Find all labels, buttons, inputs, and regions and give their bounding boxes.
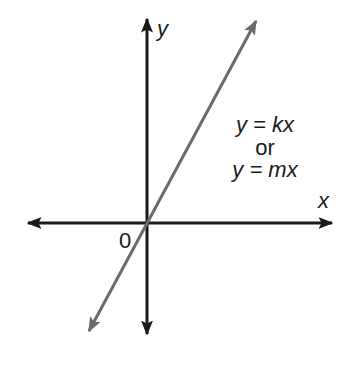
equation-or: or [200, 137, 330, 159]
origin-label: 0 [119, 230, 131, 252]
equation-mx: y = mx [200, 159, 330, 181]
y-axis-label: y [157, 18, 168, 40]
coordinate-diagram [0, 0, 350, 367]
equation-kx: y = kx [200, 114, 330, 136]
x-axis-label: x [318, 190, 329, 212]
